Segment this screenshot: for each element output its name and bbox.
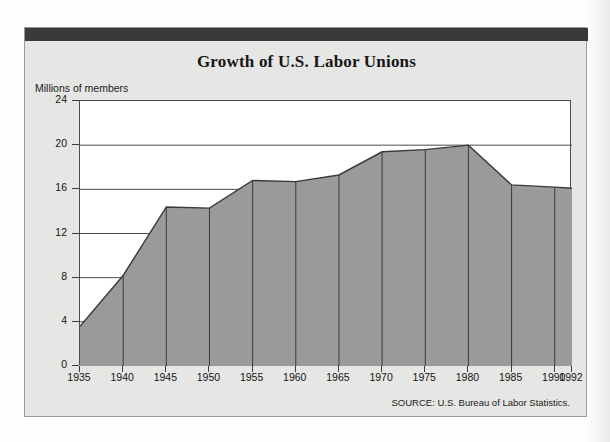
x-axis-tick-label: 1975 (401, 371, 447, 383)
y-axis-tick-label: 0 (27, 358, 67, 370)
x-axis-tick-label: 1935 (56, 371, 102, 383)
y-axis-tick-label: 16 (27, 181, 67, 193)
page-title: Growth of U.S. Labor Unions (25, 52, 588, 72)
x-axis-tick-mark (381, 366, 382, 372)
chart-card: Growth of U.S. Labor Unions Millions of … (24, 27, 587, 417)
x-axis-tick-label: 1940 (99, 371, 145, 383)
y-axis-tick-mark (72, 144, 79, 145)
x-axis-tick-mark (424, 366, 425, 372)
y-axis-tick-label: 12 (27, 226, 67, 238)
x-axis-tick-label: 1985 (488, 371, 534, 383)
masthead-bar (25, 28, 588, 41)
area-series-fill (80, 145, 572, 366)
y-axis-tick-mark (72, 277, 79, 278)
plot-area (79, 100, 571, 365)
x-axis-tick-mark (467, 366, 468, 372)
x-axis-tick-mark (571, 366, 572, 372)
y-axis-tick-mark (72, 233, 79, 234)
x-axis-tick-label: 1960 (272, 371, 318, 383)
y-axis-tick-mark (72, 365, 79, 366)
x-axis-tick-mark (165, 366, 166, 372)
x-axis-tick-label: 1992 (548, 371, 594, 383)
x-axis-tick-mark (295, 366, 296, 372)
y-axis-tick-mark (72, 188, 79, 189)
y-axis-tick-mark (72, 100, 79, 101)
y-axis-tick-label: 20 (27, 137, 67, 149)
x-axis-tick-label: 1965 (315, 371, 361, 383)
figure-canvas: Growth of U.S. Labor Unions Millions of … (0, 0, 610, 442)
x-axis-tick-label: 1945 (142, 371, 188, 383)
x-axis-tick-mark (338, 366, 339, 372)
x-axis-tick-label: 1950 (185, 371, 231, 383)
y-axis-tick-label: 24 (27, 93, 67, 105)
source-note: SOURCE: U.S. Bureau of Labor Statistics. (392, 397, 570, 408)
x-axis-tick-label: 1970 (358, 371, 404, 383)
x-axis-tick-mark (511, 366, 512, 372)
y-axis-tick-label: 8 (27, 270, 67, 282)
x-axis-tick-mark (252, 366, 253, 372)
x-axis-tick-label: 1955 (229, 371, 275, 383)
y-axis-tick-label: 4 (27, 314, 67, 326)
x-axis-tick-mark (122, 366, 123, 372)
x-axis-tick-label: 1980 (444, 371, 490, 383)
y-axis-tick-mark (72, 321, 79, 322)
x-axis-tick-mark (208, 366, 209, 372)
area-chart-svg (80, 101, 572, 366)
x-axis-tick-mark (79, 366, 80, 372)
